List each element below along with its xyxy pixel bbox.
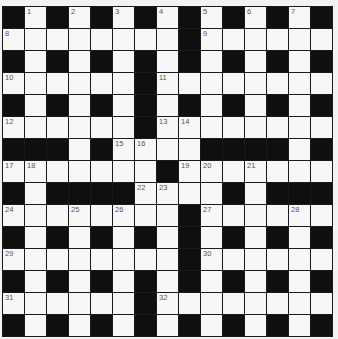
answer-cell[interactable] (69, 117, 90, 138)
answer-cell[interactable] (157, 51, 178, 72)
answer-cell[interactable] (201, 117, 222, 138)
answer-cell[interactable] (245, 51, 266, 72)
answer-cell[interactable]: 13 (157, 117, 178, 138)
answer-cell[interactable] (91, 205, 112, 226)
answer-cell[interactable] (289, 51, 310, 72)
answer-cell[interactable] (91, 161, 112, 182)
answer-cell[interactable] (157, 29, 178, 50)
answer-cell[interactable] (201, 227, 222, 248)
answer-cell[interactable] (113, 95, 134, 116)
answer-cell[interactable] (267, 249, 288, 270)
answer-cell[interactable]: 25 (69, 205, 90, 226)
answer-cell[interactable] (289, 161, 310, 182)
answer-cell[interactable] (245, 73, 266, 94)
answer-cell[interactable] (47, 293, 68, 314)
answer-cell[interactable] (201, 293, 222, 314)
answer-cell[interactable] (245, 29, 266, 50)
answer-cell[interactable] (223, 205, 244, 226)
answer-cell[interactable]: 15 (113, 139, 134, 160)
answer-cell[interactable] (135, 205, 156, 226)
answer-cell[interactable] (157, 139, 178, 160)
answer-cell[interactable] (223, 73, 244, 94)
answer-cell[interactable] (223, 249, 244, 270)
answer-cell[interactable] (245, 293, 266, 314)
answer-cell[interactable] (47, 249, 68, 270)
answer-cell[interactable]: 23 (157, 183, 178, 204)
answer-cell[interactable] (135, 161, 156, 182)
answer-cell[interactable] (113, 293, 134, 314)
answer-cell[interactable] (223, 117, 244, 138)
answer-cell[interactable]: 6 (245, 7, 266, 28)
answer-cell[interactable]: 27 (201, 205, 222, 226)
answer-cell[interactable] (267, 161, 288, 182)
answer-cell[interactable] (25, 315, 46, 336)
answer-cell[interactable] (245, 183, 266, 204)
answer-cell[interactable] (113, 51, 134, 72)
answer-cell[interactable] (267, 73, 288, 94)
answer-cell[interactable]: 12 (3, 117, 24, 138)
answer-cell[interactable]: 10 (3, 73, 24, 94)
answer-cell[interactable] (69, 139, 90, 160)
answer-cell[interactable] (25, 205, 46, 226)
answer-cell[interactable] (91, 117, 112, 138)
answer-cell[interactable]: 14 (179, 117, 200, 138)
answer-cell[interactable]: 1 (25, 7, 46, 28)
answer-cell[interactable]: 5 (201, 7, 222, 28)
answer-cell[interactable] (201, 183, 222, 204)
answer-cell[interactable] (289, 315, 310, 336)
answer-cell[interactable] (201, 51, 222, 72)
answer-cell[interactable] (113, 249, 134, 270)
answer-cell[interactable]: 19 (179, 161, 200, 182)
answer-cell[interactable] (223, 293, 244, 314)
answer-cell[interactable] (179, 183, 200, 204)
answer-cell[interactable] (91, 293, 112, 314)
answer-cell[interactable] (289, 117, 310, 138)
answer-cell[interactable] (245, 271, 266, 292)
answer-cell[interactable] (69, 315, 90, 336)
answer-cell[interactable]: 20 (201, 161, 222, 182)
answer-cell[interactable] (289, 249, 310, 270)
answer-cell[interactable] (245, 227, 266, 248)
answer-cell[interactable] (157, 205, 178, 226)
answer-cell[interactable] (201, 271, 222, 292)
answer-cell[interactable]: 16 (135, 139, 156, 160)
answer-cell[interactable] (69, 161, 90, 182)
answer-cell[interactable]: 26 (113, 205, 134, 226)
answer-cell[interactable] (25, 227, 46, 248)
answer-cell[interactable] (289, 95, 310, 116)
answer-cell[interactable] (201, 315, 222, 336)
answer-cell[interactable] (179, 293, 200, 314)
answer-cell[interactable] (157, 249, 178, 270)
answer-cell[interactable] (25, 271, 46, 292)
answer-cell[interactable] (201, 95, 222, 116)
answer-cell[interactable]: 2 (69, 7, 90, 28)
answer-cell[interactable] (311, 29, 332, 50)
answer-cell[interactable]: 32 (157, 293, 178, 314)
answer-cell[interactable] (245, 315, 266, 336)
answer-cell[interactable] (113, 227, 134, 248)
answer-cell[interactable] (25, 293, 46, 314)
answer-cell[interactable]: 11 (157, 73, 178, 94)
answer-cell[interactable] (311, 293, 332, 314)
answer-cell[interactable] (113, 73, 134, 94)
answer-cell[interactable]: 9 (201, 29, 222, 50)
answer-cell[interactable] (289, 271, 310, 292)
answer-cell[interactable] (25, 73, 46, 94)
answer-cell[interactable] (69, 227, 90, 248)
answer-cell[interactable] (69, 293, 90, 314)
answer-cell[interactable] (245, 249, 266, 270)
answer-cell[interactable]: 29 (3, 249, 24, 270)
answer-cell[interactable] (267, 205, 288, 226)
answer-cell[interactable] (157, 227, 178, 248)
answer-cell[interactable] (311, 205, 332, 226)
answer-cell[interactable]: 3 (113, 7, 134, 28)
answer-cell[interactable] (179, 139, 200, 160)
answer-cell[interactable] (311, 73, 332, 94)
answer-cell[interactable] (311, 249, 332, 270)
answer-cell[interactable] (69, 51, 90, 72)
answer-cell[interactable] (223, 29, 244, 50)
answer-cell[interactable] (91, 73, 112, 94)
answer-cell[interactable]: 17 (3, 161, 24, 182)
answer-cell[interactable] (245, 95, 266, 116)
answer-cell[interactable] (245, 205, 266, 226)
